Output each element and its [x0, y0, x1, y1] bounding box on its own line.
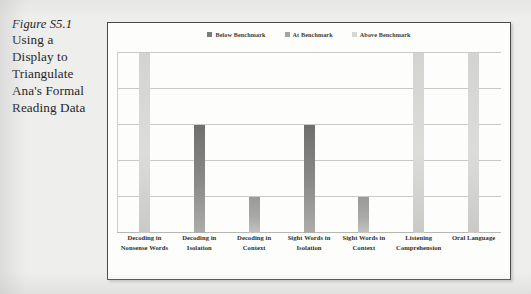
legend-label-above-benchmark: Above Benchmark — [360, 31, 411, 38]
legend-item-below-benchmark[interactable]: Below Benchmark — [207, 31, 265, 38]
caption-line-4: Ana's Formal — [12, 83, 100, 100]
legend-swatch-below-benchmark — [207, 32, 212, 37]
x-axis-label: Decoding inNonsense Words — [117, 233, 172, 267]
x-axis-label-line: Oral Language — [447, 233, 500, 243]
x-axis-label-line: Listening — [392, 233, 445, 243]
figure-caption: Figure S5.1 Using a Display to Triangula… — [12, 16, 100, 117]
x-axis-label-line: Sight Words in — [283, 233, 336, 243]
caption-line-2: Display to — [12, 49, 100, 66]
bar-slot — [117, 53, 172, 233]
bar-slot — [336, 53, 391, 233]
legend-label-below-benchmark: Below Benchmark — [215, 31, 265, 38]
plot-area — [117, 53, 501, 233]
x-axis-label-line: Isolation — [283, 243, 336, 253]
x-axis-label-line: Decoding in — [173, 233, 226, 243]
x-axis-label-line: Isolation — [173, 243, 226, 253]
x-axis-label: Sight Words inIsolation — [282, 233, 337, 267]
caption-line-1: Using a — [12, 32, 100, 49]
legend-item-at-benchmark[interactable]: At Benchmark — [285, 31, 333, 38]
bar[interactable] — [249, 197, 260, 233]
x-axis-label: Sight Words inContext — [336, 233, 391, 267]
bar[interactable] — [194, 125, 205, 233]
legend-swatch-at-benchmark — [285, 32, 290, 37]
x-axis-label-line: Comprehension — [392, 243, 445, 253]
x-axis-labels: Decoding inNonsense WordsDecoding inIsol… — [117, 233, 501, 267]
x-axis-label: ListeningComprehension — [391, 233, 446, 267]
legend-item-above-benchmark[interactable]: Above Benchmark — [352, 31, 411, 38]
x-axis-label-line: Decoding in — [228, 233, 281, 243]
bar-slot — [282, 53, 337, 233]
x-axis-label-line: Sight Words in — [337, 233, 390, 243]
bar-slot — [227, 53, 282, 233]
legend-swatch-above-benchmark — [352, 32, 357, 37]
bar-series — [117, 53, 501, 233]
chart-frame: Below Benchmark At Benchmark Above Bench… — [107, 22, 511, 280]
x-axis-label-line: Decoding in — [118, 233, 171, 243]
bar[interactable] — [304, 125, 315, 233]
bar[interactable] — [139, 53, 150, 233]
x-axis-label-line: Context — [228, 243, 281, 253]
bar-slot — [172, 53, 227, 233]
bar[interactable] — [413, 53, 424, 233]
bar-slot — [446, 53, 501, 233]
x-axis-label: Decoding inIsolation — [172, 233, 227, 267]
legend-label-at-benchmark: At Benchmark — [293, 31, 333, 38]
caption-line-5: Reading Data — [12, 100, 100, 117]
caption-line-figure-number: Figure S5.1 — [12, 16, 100, 32]
x-axis-label-line: Nonsense Words — [118, 243, 171, 253]
bar[interactable] — [468, 53, 479, 233]
figure-page: Figure S5.1 Using a Display to Triangula… — [0, 0, 531, 294]
chart-legend: Below Benchmark At Benchmark Above Bench… — [108, 31, 510, 38]
caption-line-3: Triangulate — [12, 66, 100, 83]
x-axis-label-line: Context — [337, 243, 390, 253]
bar[interactable] — [358, 197, 369, 233]
bar-slot — [391, 53, 446, 233]
x-axis-label: Decoding inContext — [227, 233, 282, 267]
x-axis-label: Oral Language — [446, 233, 501, 267]
